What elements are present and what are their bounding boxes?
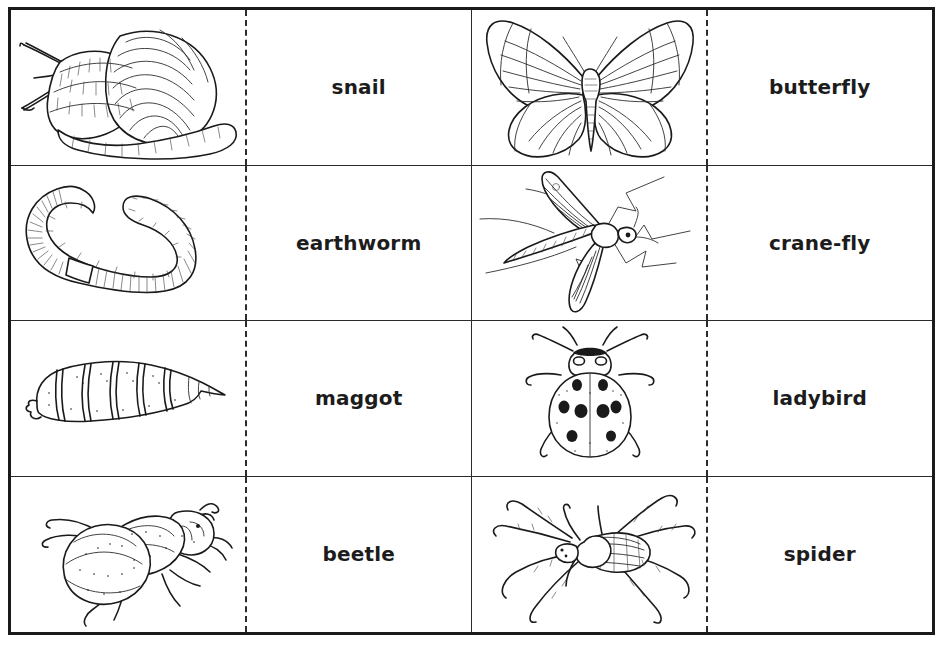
- word-half-crane-fly[interactable]: crane-fly: [708, 166, 933, 321]
- beetle-illustration: [22, 482, 237, 627]
- maggot-illustration: [19, 343, 239, 453]
- word-half-earthworm[interactable]: earthworm: [247, 166, 471, 321]
- word-half-beetle[interactable]: beetle: [247, 477, 471, 633]
- card-maggot[interactable]: maggot: [11, 321, 472, 477]
- word-label-earthworm: earthworm: [296, 231, 421, 255]
- ladybird-illustration: [515, 323, 665, 473]
- butterfly-illustration: [475, 11, 705, 163]
- picture-half-crane-fly[interactable]: [472, 166, 708, 321]
- word-label-ladybird: ladybird: [772, 386, 867, 410]
- word-label-butterfly: butterfly: [769, 75, 871, 99]
- card-crane-fly[interactable]: crane-fly: [472, 166, 933, 322]
- word-label-snail: snail: [332, 75, 386, 99]
- picture-half-snail[interactable]: [11, 10, 247, 165]
- spider-illustration: [476, 480, 704, 628]
- card-ladybird[interactable]: ladybird: [472, 321, 933, 477]
- picture-half-earthworm[interactable]: [11, 166, 247, 321]
- picture-half-butterfly[interactable]: [472, 10, 708, 165]
- card-snail[interactable]: snail: [11, 10, 472, 166]
- word-half-snail[interactable]: snail: [247, 10, 471, 165]
- picture-half-spider[interactable]: [472, 477, 708, 633]
- card-grid: snail: [8, 7, 935, 635]
- word-half-spider[interactable]: spider: [708, 477, 933, 633]
- card-spider[interactable]: spider: [472, 477, 933, 633]
- crane-fly-illustration: [476, 167, 704, 319]
- picture-half-beetle[interactable]: [11, 477, 247, 633]
- picture-half-ladybird[interactable]: [472, 321, 708, 476]
- word-label-spider: spider: [784, 542, 856, 566]
- earthworm-illustration: [13, 173, 245, 313]
- card-earthworm[interactable]: earthworm: [11, 166, 472, 322]
- word-half-butterfly[interactable]: butterfly: [708, 10, 933, 165]
- card-butterfly[interactable]: butterfly: [472, 10, 933, 166]
- word-half-ladybird[interactable]: ladybird: [708, 321, 933, 476]
- worksheet-sheet: snail: [0, 0, 951, 649]
- word-half-maggot[interactable]: maggot: [247, 321, 471, 476]
- picture-half-maggot[interactable]: [11, 321, 247, 476]
- word-label-crane-fly: crane-fly: [769, 231, 871, 255]
- word-label-maggot: maggot: [315, 386, 402, 410]
- word-label-beetle: beetle: [322, 542, 395, 566]
- card-beetle[interactable]: beetle: [11, 477, 472, 633]
- snail-illustration: [14, 12, 244, 162]
